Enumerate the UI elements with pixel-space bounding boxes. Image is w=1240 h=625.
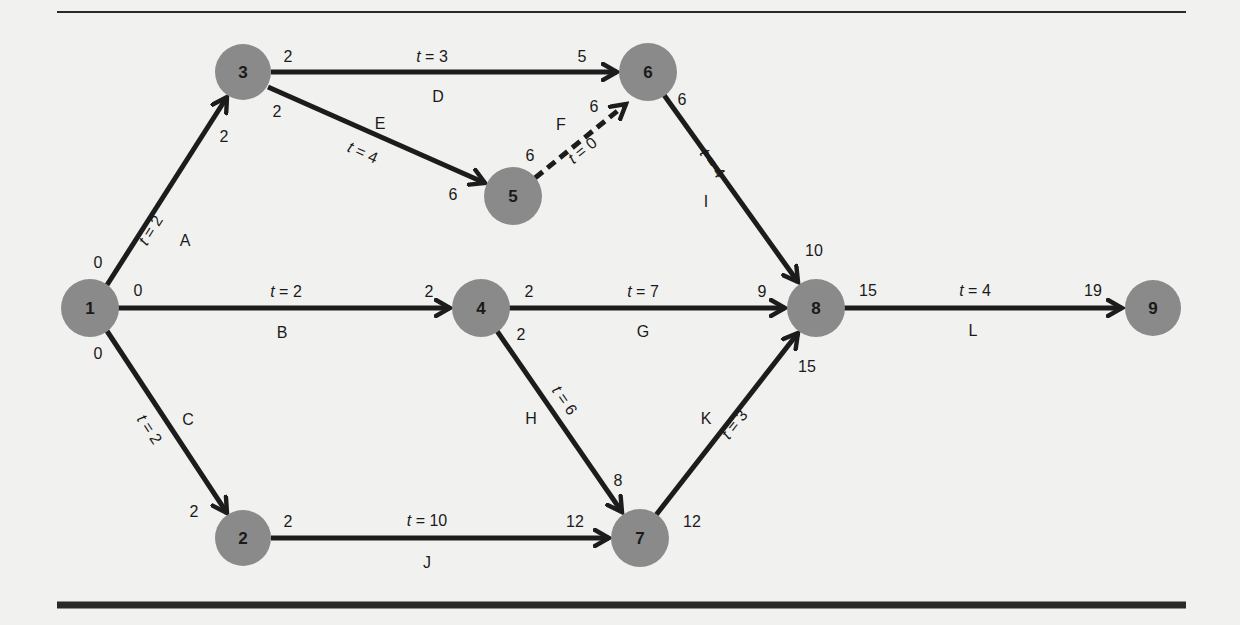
node-6-label: 6 (643, 63, 652, 82)
duration-G: t = 7 (627, 283, 659, 300)
activity-B-label: B (277, 324, 288, 341)
node-7-label: 7 (635, 529, 644, 548)
time-J-start: 2 (284, 513, 293, 530)
time-K-end: 15 (798, 358, 816, 375)
duration-F: t = 0 (564, 133, 599, 166)
time-D-end: 5 (578, 48, 587, 65)
time-E-end: 6 (449, 186, 458, 203)
time-L-start: 15 (859, 282, 877, 299)
activity-G-label: G (637, 323, 649, 340)
edge-H (497, 331, 622, 512)
time-K-start: 12 (683, 513, 701, 530)
activity-I-label: I (704, 193, 708, 210)
time-labels: 0 2 0 2 0 2 2 5 2 6 6 6 2 9 2 8 6 10 2 1… (94, 48, 1102, 530)
duration-D: t = 3 (416, 48, 448, 65)
edges (107, 72, 1122, 538)
duration-K: t = 3 (718, 406, 751, 441)
node-1: 1 (61, 279, 119, 337)
node-9-label: 9 (1148, 299, 1157, 318)
activity-E-label: E (375, 115, 386, 132)
time-J-end: 12 (566, 513, 584, 530)
node-4-label: 4 (476, 299, 486, 318)
activity-J-label: J (423, 554, 431, 571)
node-1-label: 1 (85, 299, 94, 318)
node-2: 2 (215, 510, 271, 566)
node-2-label: 2 (238, 529, 247, 548)
node-3-label: 3 (238, 63, 247, 82)
network-diagram: 1 2 3 4 5 6 7 8 9 A B C D E F G H I J K … (0, 0, 1240, 625)
edge-E (268, 87, 485, 183)
time-F-start: 6 (526, 147, 535, 164)
time-D-start: 2 (284, 48, 293, 65)
time-A-end: 2 (220, 128, 229, 145)
time-A-start: 0 (94, 254, 103, 271)
node-9: 9 (1125, 280, 1181, 336)
node-8: 8 (787, 279, 845, 337)
time-G-end: 9 (758, 283, 767, 300)
node-5: 5 (484, 167, 542, 225)
duration-L: t = 4 (959, 282, 991, 299)
node-7: 7 (611, 509, 669, 567)
activity-C-label: C (182, 411, 194, 428)
activity-H-label: H (525, 410, 537, 427)
duration-B: t = 2 (270, 283, 302, 300)
duration-A: t = 2 (134, 212, 165, 248)
time-L-end: 19 (1084, 282, 1102, 299)
time-E-start: 2 (273, 103, 282, 120)
node-3: 3 (215, 44, 271, 100)
time-B-end: 2 (425, 283, 434, 300)
edge-I (664, 95, 798, 282)
time-I-start: 6 (678, 91, 687, 108)
node-5-label: 5 (508, 187, 517, 206)
activity-L-label: L (969, 322, 978, 339)
duration-E: t = 4 (345, 138, 381, 166)
activity-F-label: F (556, 116, 566, 133)
node-4: 4 (452, 279, 510, 337)
activity-A-label: A (180, 232, 191, 249)
duration-J: t = 10 (407, 512, 448, 529)
node-8-label: 8 (811, 299, 820, 318)
edge-A (107, 97, 227, 285)
time-G-start: 2 (525, 283, 534, 300)
time-F-end: 6 (590, 98, 599, 115)
time-C-end: 2 (190, 503, 199, 520)
node-6: 6 (619, 43, 677, 101)
time-I-end: 10 (805, 242, 823, 259)
time-H-end: 8 (614, 472, 623, 489)
activity-K-label: K (701, 410, 712, 427)
time-B-start: 0 (134, 282, 143, 299)
activity-D-label: D (432, 88, 444, 105)
edge-C (107, 331, 227, 513)
time-C-start: 0 (94, 345, 103, 362)
time-H-start: 2 (517, 326, 526, 343)
